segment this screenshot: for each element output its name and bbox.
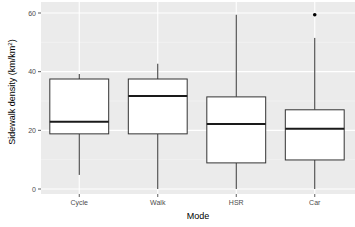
x-tick-label: Cycle xyxy=(70,199,88,207)
box-plot-chart: 0204060 CycleWalkHSRCar Mode Sidewalk de… xyxy=(0,0,355,227)
y-tick-label: 0 xyxy=(32,186,36,193)
iqr-box xyxy=(207,97,266,163)
x-tick-label: HSR xyxy=(229,199,244,206)
iqr-box xyxy=(50,79,109,134)
iqr-box xyxy=(128,79,187,134)
outlier-point xyxy=(313,13,317,17)
x-tick-label: Car xyxy=(309,199,321,206)
y-axis: 0204060 xyxy=(28,10,41,193)
y-tick-label: 40 xyxy=(28,68,36,75)
iqr-box xyxy=(285,110,344,160)
y-tick-label: 20 xyxy=(28,127,36,134)
x-axis-title: Mode xyxy=(187,211,210,221)
x-tick-label: Walk xyxy=(150,199,166,206)
y-tick-label: 60 xyxy=(28,10,36,17)
y-axis-title: Sidewalk density (km/km2) xyxy=(7,39,17,144)
x-axis: CycleWalkHSRCar xyxy=(70,194,321,207)
